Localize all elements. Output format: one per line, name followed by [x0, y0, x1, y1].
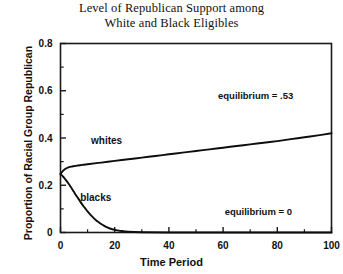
equilibrium-blacks: equilibrium = 0	[225, 206, 292, 217]
annotations: equilibrium = .53equilibrium = 0whitesbl…	[80, 90, 293, 217]
x-tick-label: 20	[109, 240, 121, 251]
y-tick-label: 0.8	[39, 38, 53, 49]
series-label-blacks: blacks	[80, 192, 112, 203]
chart-figure: Level of Republican Support among White …	[0, 0, 343, 274]
series-line-blacks	[61, 174, 332, 233]
data-series	[61, 133, 332, 232]
x-tick-label: 60	[218, 240, 230, 251]
tick-labels: 02040608010000.20.40.60.8	[39, 38, 341, 250]
x-tick-label: 100	[323, 240, 340, 251]
x-tick-label: 0	[58, 240, 64, 251]
x-tick-label: 80	[272, 240, 284, 251]
plot-area: 02040608010000.20.40.60.8 equilibrium = …	[0, 0, 343, 274]
y-tick-label: 0.4	[39, 133, 53, 144]
y-tick-label: 0.2	[39, 180, 53, 191]
y-tick-label: 0	[47, 227, 53, 238]
x-tick-label: 40	[163, 240, 175, 251]
y-tick-label: 0.6	[39, 85, 53, 96]
equilibrium-whites: equilibrium = .53	[218, 90, 293, 101]
series-label-whites: whites	[90, 135, 123, 146]
